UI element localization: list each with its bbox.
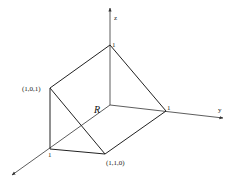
- edge-top-to-y1: [110, 45, 166, 111]
- region-label: R: [93, 104, 100, 115]
- point-110-label: (1,1,0): [106, 159, 125, 167]
- point-101-label: (1,0,1): [22, 85, 41, 93]
- x-intercept-label: 1: [48, 151, 52, 159]
- z-axis-label: z: [114, 14, 117, 22]
- x-axis: [12, 105, 110, 175]
- z-intercept-label: 1: [112, 41, 116, 49]
- edge-top-to-101: [50, 45, 110, 88]
- edge-101-to-110: [50, 88, 105, 154]
- edge-x1-to-110: [50, 149, 105, 154]
- solid-edges: [50, 45, 166, 154]
- edge-110-to-y1: [105, 111, 166, 154]
- y-intercept-label: 1: [167, 104, 171, 112]
- axes: [12, 8, 223, 175]
- y-axis-label: y: [218, 106, 222, 114]
- diagram-canvas: z y 1 1 1 (1,0,1) (1,1,0) R: [0, 0, 225, 182]
